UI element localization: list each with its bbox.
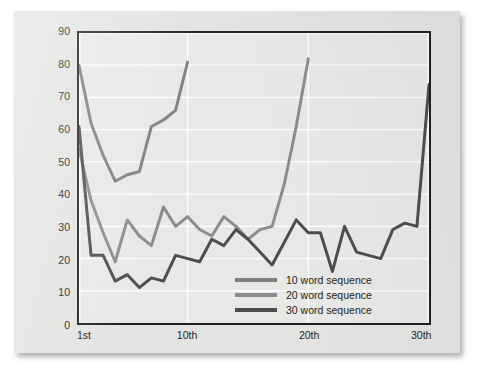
legend-item: 10 word sequence	[235, 272, 372, 287]
y-tick-label: 40	[42, 188, 70, 200]
chart-legend: 10 word sequence20 word sequence30 word …	[235, 272, 372, 317]
x-axis-tick-labels: 1st10th20th30th	[77, 329, 431, 347]
y-tick-label: 20	[42, 254, 70, 266]
y-tick-label: 60	[42, 123, 70, 135]
legend-item-label: 20 word sequence	[286, 289, 372, 301]
legend-item: 20 word sequence	[235, 287, 372, 302]
legend-color-swatch	[235, 278, 277, 282]
y-tick-label: 90	[42, 25, 70, 37]
series-line	[79, 59, 308, 262]
legend-color-swatch	[235, 308, 277, 312]
x-tick-label: 20th	[299, 329, 319, 341]
x-tick-label: 1st	[77, 329, 91, 341]
figure-card: Percentage recalled correctly 0102030405…	[14, 11, 460, 353]
legend-item: 30 word sequence	[235, 302, 372, 317]
legend-item-label: 10 word sequence	[286, 274, 372, 286]
series-line	[79, 62, 188, 181]
series-line	[79, 85, 429, 288]
y-tick-label: 80	[42, 58, 70, 70]
x-tick-label: 10th	[177, 329, 197, 341]
y-tick-label: 0	[42, 319, 70, 331]
legend-color-swatch	[235, 293, 277, 297]
y-tick-label: 10	[42, 286, 70, 298]
x-tick-label: 30th	[411, 329, 431, 341]
y-tick-label: 70	[42, 90, 70, 102]
legend-item-label: 30 word sequence	[286, 304, 372, 316]
y-tick-label: 30	[42, 221, 70, 233]
y-axis-tick-labels: 0102030405060708090	[40, 31, 70, 325]
y-tick-label: 50	[42, 156, 70, 168]
